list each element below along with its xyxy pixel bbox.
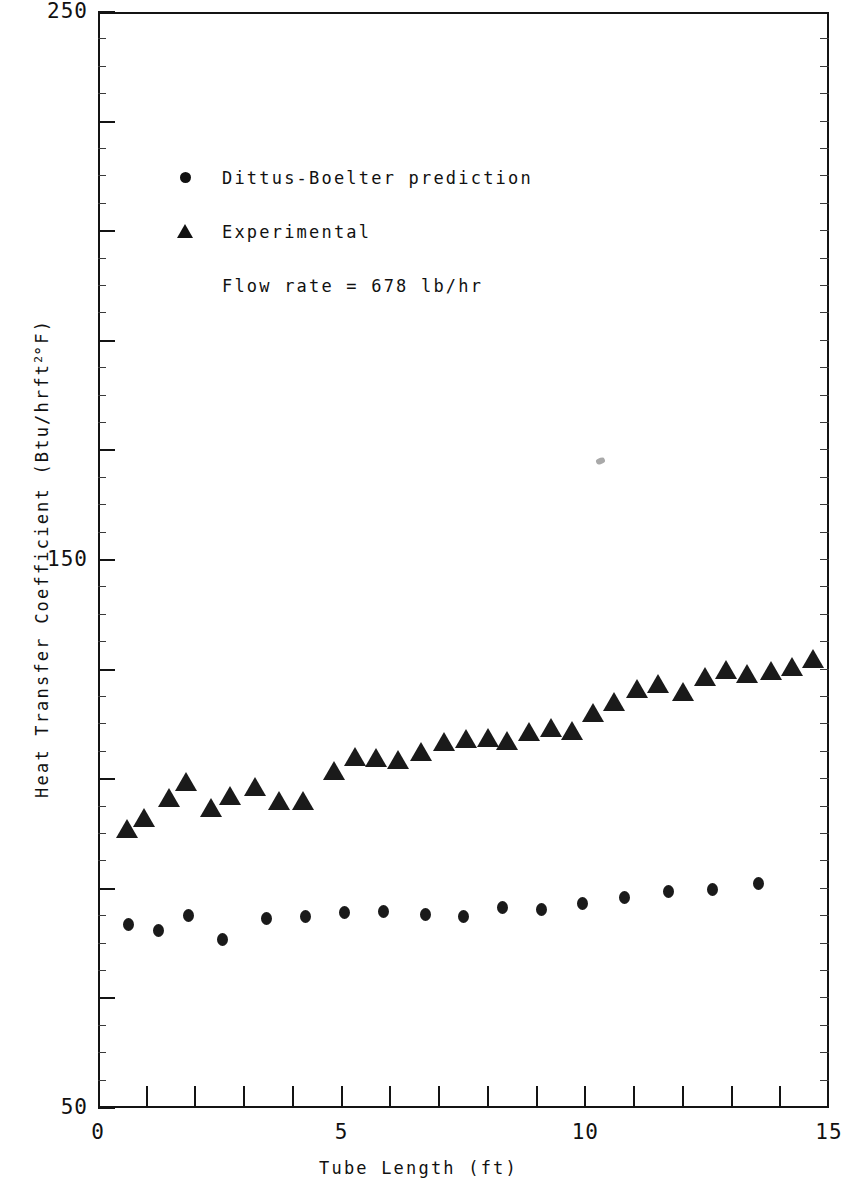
- y-tick-major: [98, 888, 115, 890]
- y-tick-minor: [98, 258, 106, 259]
- data-point-circle: [183, 909, 194, 922]
- data-point-circle: [536, 903, 547, 916]
- data-point-triangle: [410, 742, 432, 761]
- y-tick-minor: [98, 504, 106, 505]
- y-tick-right: [820, 559, 829, 560]
- data-point-triangle: [582, 703, 604, 722]
- data-point-circle: [619, 891, 630, 904]
- y-tick-minor: [98, 1052, 106, 1053]
- data-point-triangle: [518, 722, 540, 741]
- x-tick-label: 0: [68, 1122, 128, 1143]
- y-tick-minor: [98, 422, 106, 423]
- x-tick: [341, 1086, 343, 1108]
- x-tick: [779, 1086, 781, 1108]
- y-tick-minor: [98, 38, 106, 39]
- y-tick-right: [820, 66, 829, 67]
- y-tick-right: [820, 1080, 829, 1081]
- x-tick: [389, 1086, 391, 1108]
- y-tick-minor: [98, 806, 106, 807]
- y-tick-right: [820, 1052, 829, 1053]
- triangle-marker-icon: [177, 224, 193, 238]
- y-tick-label: 150: [8, 549, 88, 570]
- x-tick: [438, 1086, 440, 1108]
- data-point-triangle: [802, 649, 824, 668]
- data-point-circle: [261, 912, 272, 925]
- data-point-triangle: [626, 679, 648, 698]
- y-tick-minor: [98, 477, 106, 478]
- data-point-circle: [707, 883, 718, 896]
- x-tick: [292, 1086, 294, 1108]
- y-tick-right: [820, 751, 829, 752]
- y-tick-label: 50: [8, 1097, 88, 1118]
- y-tick-right: [820, 504, 829, 505]
- y-tick-right: [820, 312, 829, 313]
- y-tick-minor: [98, 395, 106, 396]
- data-point-triangle: [433, 732, 455, 751]
- legend-entry-experimental: Experimental: [176, 222, 606, 276]
- y-tick-minor: [98, 860, 106, 861]
- y-tick-minor: [98, 696, 106, 697]
- y-tick-right: [820, 395, 829, 396]
- data-point-triangle: [292, 791, 314, 810]
- y-tick-minor: [98, 532, 106, 533]
- x-tick: [682, 1086, 684, 1108]
- y-axis-title-post: °F): [32, 319, 52, 356]
- y-tick-right: [820, 723, 829, 724]
- y-tick-major: [98, 559, 115, 561]
- data-point-triangle: [715, 660, 737, 679]
- y-tick-minor: [98, 175, 106, 176]
- y-tick-right: [820, 175, 829, 176]
- x-tick: [536, 1086, 538, 1108]
- y-tick-right: [820, 285, 829, 286]
- y-axis-title-superscript: 2: [32, 356, 45, 363]
- y-tick-label: 250: [8, 1, 88, 22]
- y-tick-major: [98, 997, 115, 999]
- data-point-triangle: [133, 808, 155, 827]
- y-tick-major: [98, 230, 115, 232]
- y-tick-minor: [98, 1080, 106, 1081]
- y-tick-right: [820, 970, 829, 971]
- circle-marker-icon: [180, 172, 191, 183]
- data-point-triangle: [760, 661, 782, 680]
- y-tick-right: [820, 778, 829, 779]
- y-tick-minor: [98, 148, 106, 149]
- y-tick-minor: [98, 641, 106, 642]
- y-tick-right: [820, 258, 829, 259]
- data-point-triangle: [268, 791, 290, 810]
- data-point-triangle: [647, 674, 669, 693]
- y-tick-minor: [98, 915, 106, 916]
- y-tick-right: [820, 93, 829, 94]
- y-tick-right: [820, 121, 829, 122]
- y-tick-right: [820, 943, 829, 944]
- data-point-triangle: [455, 729, 477, 748]
- y-tick-right: [820, 230, 829, 231]
- y-tick-right: [820, 833, 829, 834]
- y-tick-major: [98, 11, 115, 13]
- y-tick-right: [820, 696, 829, 697]
- y-tick-minor: [98, 93, 106, 94]
- y-tick-minor: [98, 66, 106, 67]
- data-point-circle: [497, 901, 508, 914]
- y-tick-minor: [98, 586, 106, 587]
- y-tick-right: [820, 148, 829, 149]
- y-tick-right: [820, 449, 829, 450]
- y-tick-right: [820, 38, 829, 39]
- y-tick-right: [820, 915, 829, 916]
- data-point-triangle: [365, 748, 387, 767]
- y-tick-major: [98, 778, 115, 780]
- y-tick-minor: [98, 285, 106, 286]
- legend-label-dittus-boelter: Dittus-Boelter prediction: [222, 168, 533, 188]
- x-axis-title: Tube Length (ft): [0, 1158, 837, 1178]
- y-tick-right: [820, 340, 829, 341]
- legend-entry-dittus-boelter: Dittus-Boelter prediction: [176, 168, 606, 222]
- y-tick-right: [820, 477, 829, 478]
- y-tick-major: [98, 669, 115, 671]
- data-point-circle: [753, 877, 764, 890]
- y-tick-right: [820, 586, 829, 587]
- x-tick: [146, 1086, 148, 1108]
- data-point-triangle: [561, 721, 583, 740]
- y-tick-minor: [98, 833, 106, 834]
- y-tick-right: [820, 997, 829, 998]
- legend: Dittus-Boelter prediction Experimental F…: [176, 168, 606, 330]
- y-tick-right: [820, 669, 829, 670]
